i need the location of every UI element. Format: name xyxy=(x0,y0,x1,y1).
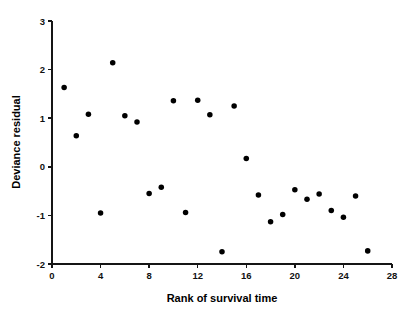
data-point xyxy=(171,98,177,104)
plot-canvas: -2-10123 0481216202428 Rank of survival … xyxy=(0,0,411,313)
x-tick-label: 12 xyxy=(192,270,203,281)
y-axis-title: Deviance residual xyxy=(10,95,22,189)
x-tick-label: 8 xyxy=(146,270,151,281)
axis-group xyxy=(52,21,392,264)
x-axis-title: Rank of survival time xyxy=(167,292,278,304)
y-tick-label: 3 xyxy=(40,16,45,27)
x-axis-ticks: 0481216202428 xyxy=(49,264,397,281)
data-point xyxy=(353,193,359,199)
y-tick-label: -2 xyxy=(37,259,45,270)
y-tick-label: 2 xyxy=(40,64,45,75)
data-point xyxy=(122,113,128,119)
data-point xyxy=(86,112,92,118)
data-point xyxy=(256,192,262,198)
x-tick-label: 0 xyxy=(49,270,54,281)
data-point xyxy=(365,248,371,254)
data-point xyxy=(195,97,201,103)
data-point xyxy=(280,212,286,218)
data-point xyxy=(244,156,250,162)
x-tick-label: 4 xyxy=(98,270,104,281)
data-point xyxy=(159,184,165,190)
scatter-plot-figure: -2-10123 0481216202428 Rank of survival … xyxy=(0,0,411,313)
data-point xyxy=(74,133,80,139)
data-point xyxy=(134,119,140,125)
x-tick-label: 28 xyxy=(387,270,398,281)
data-point xyxy=(219,249,225,255)
data-point xyxy=(341,215,347,221)
y-tick-label: 0 xyxy=(40,161,45,172)
y-tick-label: -1 xyxy=(37,210,46,221)
x-tick-label: 20 xyxy=(290,270,301,281)
data-point xyxy=(329,208,335,214)
data-point xyxy=(146,191,152,197)
data-points-group xyxy=(61,60,370,255)
data-point xyxy=(98,210,104,216)
data-point xyxy=(61,85,67,91)
data-point xyxy=(231,103,237,109)
x-tick-label: 24 xyxy=(338,270,349,281)
y-tick-label: 1 xyxy=(40,113,46,124)
data-point xyxy=(183,210,189,216)
data-point xyxy=(292,187,298,193)
x-tick-label: 16 xyxy=(241,270,252,281)
y-axis-ticks: -2-10123 xyxy=(37,16,52,270)
data-point xyxy=(268,219,274,225)
data-point xyxy=(316,191,322,197)
data-point xyxy=(304,197,310,203)
data-point xyxy=(110,60,116,66)
data-point xyxy=(207,112,213,118)
